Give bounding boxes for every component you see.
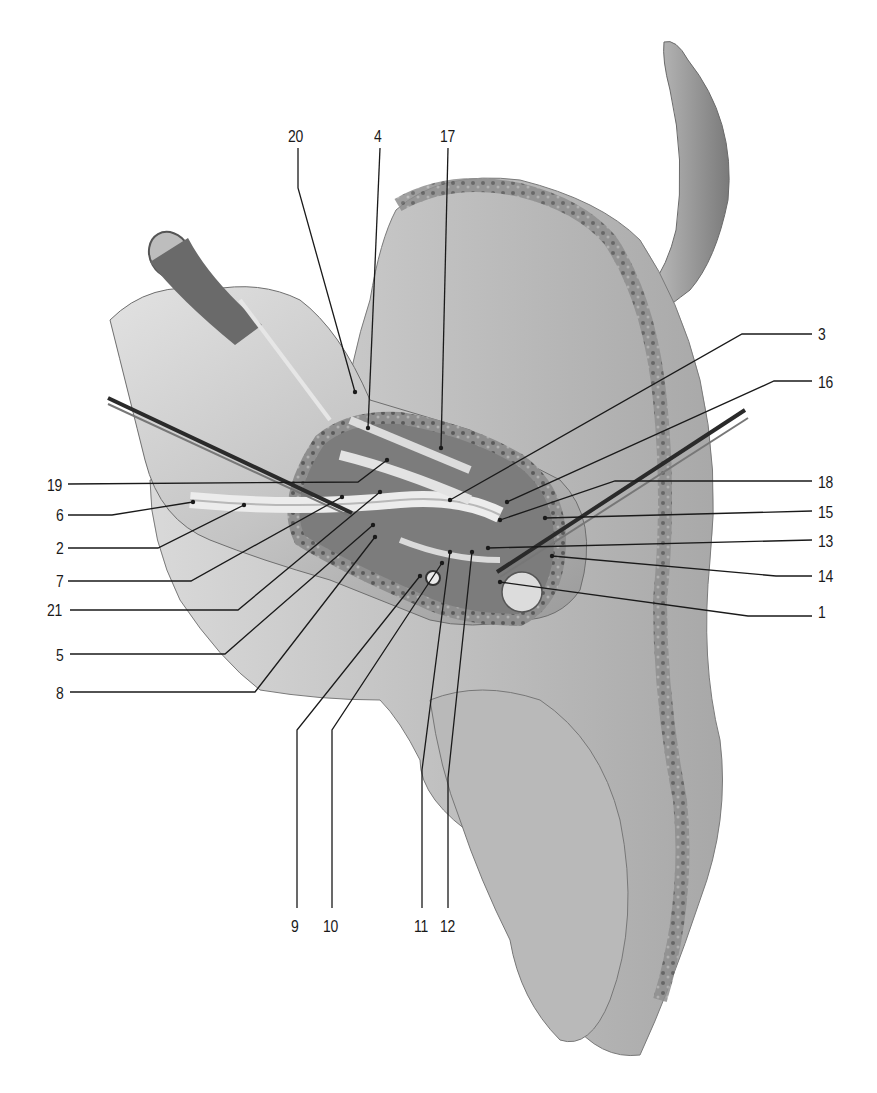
label-10: 10 bbox=[323, 918, 338, 935]
leader-dot-4 bbox=[366, 426, 370, 430]
label-15: 15 bbox=[818, 504, 833, 521]
leader-dot-3 bbox=[448, 498, 452, 502]
leader-dot-16 bbox=[505, 500, 509, 504]
leader-dot-8 bbox=[373, 535, 377, 539]
cochlea bbox=[502, 572, 542, 612]
anatomical-figure: 204173161815131411962721589101112 bbox=[0, 0, 877, 1093]
label-16: 16 bbox=[818, 374, 833, 391]
leader-dot-19 bbox=[385, 458, 389, 462]
leader-dot-12 bbox=[470, 550, 474, 554]
leader-dot-5 bbox=[371, 523, 375, 527]
leader-dot-6 bbox=[191, 500, 195, 504]
label-3: 3 bbox=[818, 326, 826, 343]
leader-dot-9 bbox=[418, 574, 422, 578]
leader-dot-1 bbox=[498, 580, 502, 584]
label-2: 2 bbox=[56, 540, 64, 557]
label-7: 7 bbox=[56, 573, 64, 590]
label-21: 21 bbox=[47, 602, 62, 619]
label-5: 5 bbox=[56, 647, 64, 664]
leader-dot-7 bbox=[340, 495, 344, 499]
leader-dot-15 bbox=[543, 516, 547, 520]
leader-dot-18 bbox=[498, 518, 502, 522]
label-14: 14 bbox=[818, 568, 833, 585]
leader-dot-2 bbox=[242, 503, 246, 507]
label-20: 20 bbox=[288, 128, 303, 145]
label-4: 4 bbox=[374, 128, 382, 145]
label-6: 6 bbox=[56, 507, 64, 524]
leader-dot-17 bbox=[439, 446, 443, 450]
label-8: 8 bbox=[56, 685, 64, 702]
leader-dot-13 bbox=[486, 546, 490, 550]
leader-dot-21 bbox=[378, 490, 382, 494]
label-9: 9 bbox=[291, 918, 299, 935]
leader-dot-20 bbox=[353, 390, 357, 394]
label-18: 18 bbox=[818, 474, 833, 491]
label-17: 17 bbox=[440, 128, 455, 145]
temporal-bone-illustration bbox=[0, 0, 877, 1093]
leader-dot-14 bbox=[550, 554, 554, 558]
label-19: 19 bbox=[47, 477, 62, 494]
label-12: 12 bbox=[440, 918, 455, 935]
label-13: 13 bbox=[818, 533, 833, 550]
leader-dot-10 bbox=[440, 561, 444, 565]
label-1: 1 bbox=[818, 604, 826, 621]
leader-dot-11 bbox=[448, 550, 452, 554]
ossicle bbox=[426, 571, 440, 585]
label-11: 11 bbox=[414, 918, 428, 935]
